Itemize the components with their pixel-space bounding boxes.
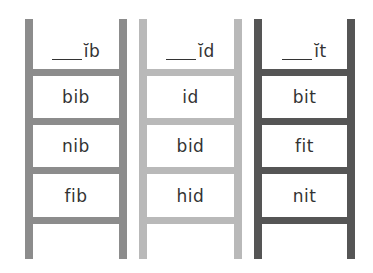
ladder-rung [254,118,355,125]
ladder-rung [139,69,242,76]
ladder-rung [139,167,242,174]
word-cell: bib [33,76,119,118]
word-family-header: ĭb [33,19,119,69]
word-family-pattern: ĭb [84,41,101,61]
word-cell: nit [262,174,347,217]
ladder-rung [25,118,127,125]
word-cell: fit [262,125,347,167]
fill-in-blank [166,58,196,60]
word-family-header: ĭt [262,19,347,69]
word-family-pattern: ĭd [198,41,215,61]
word-cell: nib [33,125,119,167]
word-cell: fib [33,174,119,217]
ladder-rung [254,167,355,174]
word-cell: id [147,76,234,118]
ladder-rung [25,69,127,76]
word-cell: hid [147,174,234,217]
ladder-rung [139,118,242,125]
ladder-rung [25,167,127,174]
word-family-pattern: ĭt [314,41,326,61]
word-cell: bid [147,125,234,167]
word-family-header: ĭd [147,19,234,69]
fill-in-blank [282,58,312,60]
ladder-rung [139,217,242,224]
fill-in-blank [52,58,82,60]
ladder-id: ĭd id bid hid [139,19,242,259]
ladder-rung [25,217,127,224]
word-cell: bit [262,76,347,118]
ladder-it: ĭt bit fit nit [254,19,355,259]
ladder-ib: ĭb bib nib fib [25,19,127,259]
ladder-rung [254,69,355,76]
ladder-rung [254,217,355,224]
